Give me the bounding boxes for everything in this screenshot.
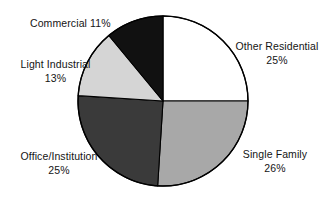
pie-label-light-industrial-name: Light Industrial — [8, 58, 103, 72]
pie-label-light-industrial: Light Industrial 13% — [8, 58, 103, 85]
pie-label-office-institution-name: Office/Institution — [4, 150, 114, 164]
pie-label-single-family-name: Single Family — [230, 148, 320, 162]
pie-label-commercial-name: Commercial — [30, 17, 87, 29]
pie-chart-figure: Commercial 11% Light Industrial 13% Offi… — [0, 0, 327, 200]
pie-label-commercial-value: 11% — [90, 17, 111, 29]
pie-label-single-family-value: 26% — [230, 162, 320, 176]
pie-label-single-family: Single Family 26% — [230, 148, 320, 175]
pie-label-other-residential-name: Other Residential — [229, 40, 325, 54]
pie-label-other-residential: Other Residential 25% — [229, 40, 325, 67]
pie-label-other-residential-value: 25% — [229, 54, 325, 68]
pie-label-commercial: Commercial 11% — [30, 17, 111, 31]
pie-label-office-institution: Office/Institution 25% — [4, 150, 114, 177]
pie-label-light-industrial-value: 13% — [8, 72, 103, 86]
pie-label-office-institution-value: 25% — [4, 164, 114, 178]
